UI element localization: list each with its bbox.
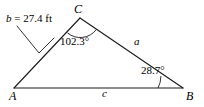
side-b-line [14,18,80,88]
triangle-figure: A B C a c 102.3° 28.7° b = 27.4 ft [0,0,204,107]
measurement-label-b: b = 27.4 ft [6,13,52,24]
angle-label-c: 102.3° [60,36,89,47]
measurement-unit-b: ft [45,12,52,24]
measurement-separator-b: = [12,12,24,24]
vertex-label-c: C [74,3,82,15]
angle-label-b: 28.7° [141,65,165,76]
measurement-value-b: 27.4 [23,12,42,24]
vertex-label-b: B [186,90,193,102]
side-label-c: c [102,88,107,99]
side-a-line [80,18,183,88]
vertex-label-a: A [9,90,16,102]
side-label-a: a [134,36,140,47]
angle-arc-b [158,76,161,88]
measurement-leader-line [17,26,54,53]
